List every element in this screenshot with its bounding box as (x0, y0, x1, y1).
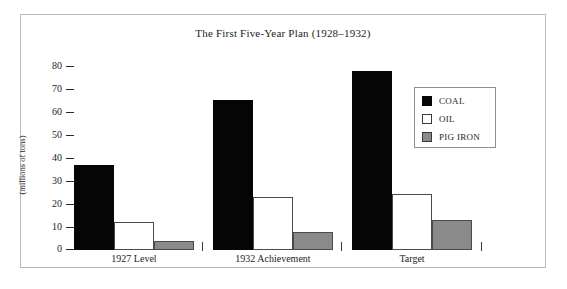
legend-swatch-oil-icon (422, 114, 432, 124)
bar-oil-1927-level (114, 222, 154, 250)
bar-coal-1932-achievement (213, 100, 253, 250)
y-tick-mark-80 (66, 66, 74, 67)
legend-swatch-coal-icon (422, 96, 432, 106)
x-axis-label-1932-achievement: 1932 Achievement (213, 253, 333, 264)
x-axis-label-target: Target (352, 253, 472, 264)
x-axis-separator-2 (341, 242, 342, 251)
y-tick-label-80: 80 (36, 61, 62, 71)
x-axis-separator-1 (202, 242, 203, 251)
y-tick-label-70: 70 (36, 84, 62, 94)
y-tick-label-50: 50 (36, 130, 62, 140)
bar-coal-1927-level (74, 165, 114, 250)
legend-item-pig-iron: PIG IRON (422, 131, 480, 143)
y-tick-mark-40 (66, 158, 74, 159)
y-tick-label-10: 10 (36, 222, 62, 232)
x-axis-separator-3 (481, 242, 482, 251)
bar-oil-target (392, 194, 432, 250)
x-axis-label-1927-level: 1927 Level (74, 253, 194, 264)
bar-pigiron-target (432, 220, 472, 250)
y-tick-label-0: 0 (36, 244, 62, 254)
figure: The First Five-Year Plan (1928–1932) (mi… (0, 0, 567, 289)
plot-area: (millions of tons) 80 70 60 50 40 30 20 … (0, 0, 567, 289)
chart-legend: COAL OIL PIG IRON (414, 87, 496, 148)
bar-pigiron-1932-achievement (293, 232, 333, 250)
y-tick-mark-70 (66, 89, 74, 90)
y-tick-label-60: 60 (36, 107, 62, 117)
y-axis-title: (millions of tons) (17, 115, 27, 215)
bar-pigiron-1927-level (154, 241, 194, 250)
legend-swatch-pig-iron-icon (422, 132, 432, 142)
legend-item-oil: OIL (422, 113, 455, 125)
legend-label-coal: COAL (439, 96, 465, 106)
bar-coal-target (352, 71, 392, 250)
legend-label-oil: OIL (439, 114, 455, 124)
legend-item-coal: COAL (422, 95, 465, 107)
y-tick-mark-0 (66, 249, 74, 250)
y-tick-mark-50 (66, 135, 74, 136)
y-tick-label-30: 30 (36, 176, 62, 186)
y-tick-label-40: 40 (36, 153, 62, 163)
legend-label-pig-iron: PIG IRON (439, 132, 480, 142)
y-tick-label-20: 20 (36, 199, 62, 209)
y-tick-mark-20 (66, 204, 74, 205)
y-tick-mark-60 (66, 112, 74, 113)
y-tick-mark-10 (66, 227, 74, 228)
bar-oil-1932-achievement (253, 197, 293, 250)
y-tick-mark-30 (66, 181, 74, 182)
